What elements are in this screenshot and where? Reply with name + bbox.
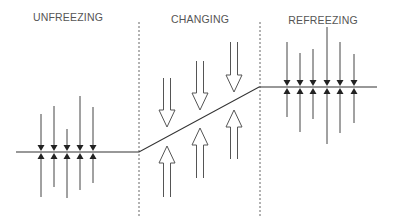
arrowhead-down-icon bbox=[324, 80, 331, 86]
arrowhead-up-icon bbox=[324, 88, 331, 94]
arrowhead-up-icon bbox=[38, 153, 45, 159]
arrowhead-down-icon bbox=[64, 145, 71, 151]
arrowhead-up-icon bbox=[284, 88, 291, 94]
diagram-canvas bbox=[0, 0, 398, 218]
arrowhead-up-icon bbox=[297, 88, 304, 94]
force-arrow-pair bbox=[64, 129, 71, 198]
force-arrow-pair bbox=[284, 42, 291, 117]
phase-dividers bbox=[139, 22, 260, 218]
arrowhead-down-icon bbox=[297, 80, 304, 86]
hollow-arrow-up-icon bbox=[159, 146, 175, 197]
hollow-arrow-up-icon bbox=[226, 110, 242, 159]
force-arrow-pair bbox=[38, 114, 45, 197]
force-arrow-pair bbox=[77, 96, 84, 190]
arrowhead-down-icon bbox=[284, 80, 291, 86]
phase-label-changing: CHANGING bbox=[171, 13, 229, 25]
arrowhead-up-icon bbox=[337, 88, 344, 94]
arrowhead-down-icon bbox=[51, 145, 58, 151]
hollow-arrow-down-icon bbox=[159, 78, 175, 127]
force-arrow-pair bbox=[310, 49, 317, 119]
arrowhead-down-icon bbox=[38, 145, 45, 151]
force-arrow-pair bbox=[51, 106, 58, 187]
arrowhead-down-icon bbox=[351, 80, 358, 86]
force-arrow-pair bbox=[351, 54, 358, 123]
unfreezing-force-arrows bbox=[38, 96, 97, 198]
hollow-arrow-down-icon bbox=[192, 61, 208, 110]
arrowhead-up-icon bbox=[64, 153, 71, 159]
arrowhead-up-icon bbox=[77, 153, 84, 159]
hollow-arrow-down-icon bbox=[226, 42, 242, 92]
arrowhead-up-icon bbox=[310, 88, 317, 94]
force-arrow-pair bbox=[297, 53, 304, 132]
arrowhead-up-icon bbox=[51, 153, 58, 159]
refreezing-force-arrows bbox=[284, 27, 358, 144]
phase-label-refreezing: REFREEZING bbox=[288, 14, 358, 26]
arrowhead-down-icon bbox=[337, 80, 344, 86]
force-arrow-pair bbox=[90, 107, 97, 183]
arrowhead-up-icon bbox=[90, 153, 97, 159]
equilibrium-line bbox=[16, 87, 377, 152]
arrowhead-down-icon bbox=[90, 145, 97, 151]
arrowhead-up-icon bbox=[351, 88, 358, 94]
arrowhead-down-icon bbox=[77, 145, 84, 151]
hollow-arrow-up-icon bbox=[192, 128, 208, 178]
phase-label-unfreezing: UNFREEZING bbox=[33, 11, 103, 23]
force-field-diagram: UNFREEZING CHANGING REFREEZING bbox=[0, 0, 398, 218]
arrowhead-down-icon bbox=[310, 80, 317, 86]
changing-force-arrows bbox=[159, 42, 242, 197]
force-arrow-pair bbox=[324, 27, 331, 144]
equilibrium-line-path bbox=[16, 87, 377, 152]
